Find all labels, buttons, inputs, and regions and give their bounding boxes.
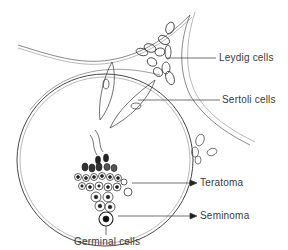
tubule-wall-right [182,15,250,145]
label-germinal-cells: Germinal cells [74,236,140,247]
label-leydig-cells: Leydig cells [219,52,274,63]
diagram-canvas: Leydig cells Sertoli cells Teratoma Semi… [0,0,288,250]
germinal-cell-cluster [75,154,133,226]
interstitial-cells-lower [192,133,218,164]
label-seminoma: Seminoma [200,210,249,221]
label-sertoli-cells: Sertoli cells [222,94,276,105]
label-teratoma: Teratoma [200,177,243,188]
